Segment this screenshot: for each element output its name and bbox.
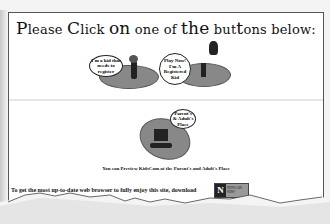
title-part: P	[16, 18, 28, 38]
title-part: on	[109, 18, 131, 38]
title-part: ons be	[243, 22, 287, 37]
title-part: but	[209, 22, 236, 37]
page-panel: Please Click on one of the buttons below…	[8, 12, 324, 214]
preview-caption: You can Preview KidsCom at the Parent's …	[9, 166, 323, 171]
page-title: Please Click on one of the buttons below…	[9, 18, 323, 38]
title-part: lease	[28, 22, 67, 37]
kid-head-icon	[129, 55, 138, 63]
bubble-text: I'm a kid that needs to register	[91, 58, 121, 75]
kid-figure-icon	[201, 63, 206, 77]
title-part: C	[67, 18, 80, 38]
section-divider	[9, 99, 323, 101]
bubble-text: Parent's & Adult's Place	[172, 111, 194, 128]
page-shadow	[0, 10, 8, 210]
speech-bubble: Parent's & Adult's Place	[170, 109, 196, 129]
title-part: lick	[80, 22, 109, 37]
kid-figure-icon	[131, 61, 137, 79]
house-icon	[154, 129, 168, 141]
register-kid-button[interactable]: I'm a kid that needs to register	[89, 51, 169, 91]
torn-edge	[0, 190, 330, 224]
speech-bubble: I'm a kid that needs to register	[89, 55, 123, 77]
ok-hand-icon	[209, 41, 218, 55]
title-part: one of	[130, 22, 181, 37]
parents-place-button[interactable]: Parent's & Adult's Place	[134, 109, 204, 161]
title-part: low:	[288, 22, 316, 37]
car-icon	[150, 143, 172, 148]
bubble-text: Play Now! I'm A Registered Kid	[161, 58, 189, 80]
title-part: the	[181, 18, 209, 38]
play-now-button[interactable]: Play Now! I'm A Registered Kid	[159, 41, 239, 91]
speech-bubble: Play Now! I'm A Registered Kid	[159, 53, 191, 85]
